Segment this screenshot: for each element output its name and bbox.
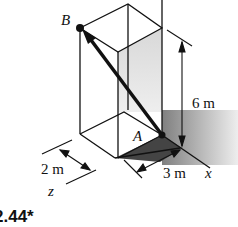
label-x-axis: x	[204, 165, 212, 181]
box-diagram: B A 6 m 2 m 3 m x z 2.44*	[0, 0, 238, 227]
point-A-dot	[159, 132, 166, 139]
label-2m: 2 m	[41, 161, 64, 177]
label-B: B	[61, 12, 70, 28]
diagram-canvas: B A 6 m 2 m 3 m x z 2.44*	[0, 0, 238, 227]
label-3m: 3 m	[163, 165, 186, 181]
label-6m: 6 m	[192, 95, 215, 111]
label-z-axis: z	[47, 183, 54, 199]
label-A: A	[132, 128, 143, 144]
point-B-dot	[76, 24, 84, 32]
figure-number: 2.44*	[0, 207, 34, 226]
